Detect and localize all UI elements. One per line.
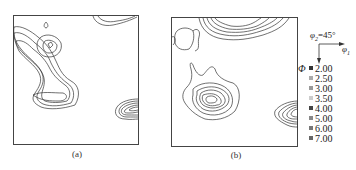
odf-panel-a bbox=[13, 15, 140, 146]
caption-b: (b) bbox=[216, 150, 256, 160]
caption-a: (a) bbox=[57, 149, 97, 159]
contour-plot-a bbox=[13, 15, 140, 146]
contour-legend: φ2=45° φ1 Φ 2.00 2.50 3.00 3.50 4.00 5.0… bbox=[297, 30, 356, 150]
phi1-axis-label: φ1 bbox=[342, 44, 350, 56]
phi-axis-label: Φ bbox=[298, 63, 306, 74]
odf-panel-b bbox=[171, 17, 299, 148]
contour-plot-b bbox=[171, 17, 299, 148]
legend-level-8: 7.00 bbox=[309, 134, 333, 144]
